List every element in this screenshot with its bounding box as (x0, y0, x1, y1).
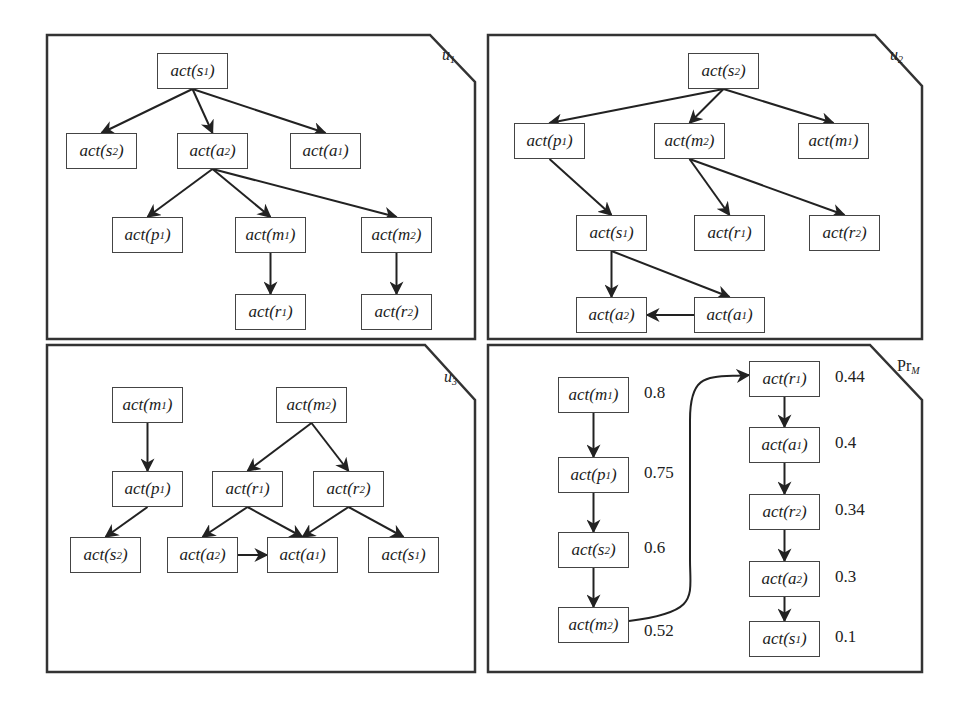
node-u3-s2: act(s2) (70, 537, 141, 573)
edge-u1-s1-s2 (102, 89, 193, 133)
edge-u3-p1-s2 (106, 507, 148, 537)
prob-r1: 0.44 (835, 367, 865, 387)
node-u2-s1: act(s1) (576, 215, 647, 251)
edge-u3-m2-r2 (312, 423, 349, 471)
node-prm-m2: act(m2) (558, 607, 629, 643)
node-u3-m2: act(m2) (276, 387, 347, 423)
node-u3-s1: act(s1) (368, 537, 439, 573)
prob-a1: 0.4 (835, 433, 856, 453)
edge-u3-m2-r1 (248, 423, 312, 471)
node-prm-a2: act(a2) (749, 561, 820, 597)
panel-label-prm: PrM (897, 357, 920, 376)
node-prm-s1: act(s1) (749, 621, 820, 657)
edge-u1-a2-p1 (148, 169, 213, 217)
node-u1-r1: act(r1) (235, 294, 306, 330)
node-u1-m1: act(m1) (235, 217, 306, 253)
node-u2-a2: act(a2) (576, 297, 647, 333)
node-u1-p1: act(p1) (112, 217, 183, 253)
figure-canvas: u1act(s1)act(s2)act(a2)act(a1)act(p1)act… (0, 0, 967, 712)
prob-s1: 0.1 (835, 627, 856, 647)
node-u3-m1: act(m1) (112, 387, 183, 423)
prob-r2: 0.34 (835, 500, 865, 520)
node-prm-r2: act(r2) (749, 494, 820, 530)
node-u3-a1: act(a1) (267, 537, 338, 573)
node-u3-a2: act(a2) (167, 537, 238, 573)
panel-label-u2: u2 (890, 46, 903, 65)
edge-u2-m2-r1 (690, 159, 730, 215)
node-prm-p1: act(p1) (558, 457, 629, 493)
node-u3-r1: act(r1) (212, 471, 283, 507)
node-u3-r2: act(r2) (313, 471, 384, 507)
node-u2-a1: act(a1) (694, 297, 765, 333)
prob-m2: 0.52 (644, 621, 674, 641)
node-u1-s1: act(s1) (157, 53, 228, 89)
edge-u2-m2-r2 (690, 159, 845, 215)
edge-u3-r2-s1 (349, 507, 404, 537)
node-prm-a1: act(a1) (749, 427, 820, 463)
edge-u2-p1-s1 (550, 159, 612, 215)
node-u1-m2: act(m2) (361, 217, 432, 253)
node-u1-a2: act(a2) (177, 133, 248, 169)
node-u1-r2: act(r2) (361, 294, 432, 330)
node-prm-r1: act(r1) (749, 361, 820, 397)
node-u1-s2: act(s2) (66, 133, 137, 169)
prob-a2: 0.3 (835, 567, 856, 587)
edge-u2-s2-m1 (724, 89, 834, 123)
node-u2-s2: act(s2) (688, 53, 759, 89)
prob-m1: 0.8 (644, 383, 665, 403)
edge-u3-r1-a1 (248, 507, 303, 537)
node-u2-m2: act(m2) (654, 123, 725, 159)
node-prm-m1: act(m1) (558, 377, 629, 413)
node-u2-r1: act(r1) (694, 215, 765, 251)
node-u2-r2: act(r2) (809, 215, 880, 251)
node-u2-p1: act(p1) (514, 123, 585, 159)
edge-prm-m2-r1 (629, 375, 749, 621)
node-prm-s2: act(s2) (558, 532, 629, 568)
panel-label-u3: u3 (444, 368, 457, 387)
edge-u2-s2-p1 (550, 89, 724, 123)
edge-u3-r2-a1 (303, 507, 349, 537)
prob-p1: 0.75 (644, 463, 674, 483)
node-u1-a1: act(a1) (290, 133, 361, 169)
edge-u3-r1-a2 (203, 507, 248, 537)
panel-label-u1: u1 (442, 46, 455, 65)
edge-u2-s1-a1 (612, 251, 730, 297)
prob-s2: 0.6 (644, 538, 665, 558)
node-u3-p1: act(p1) (112, 471, 183, 507)
node-u2-m1: act(m1) (798, 123, 869, 159)
edge-u1-s1-a1 (193, 89, 326, 133)
edges-layer (0, 0, 967, 712)
